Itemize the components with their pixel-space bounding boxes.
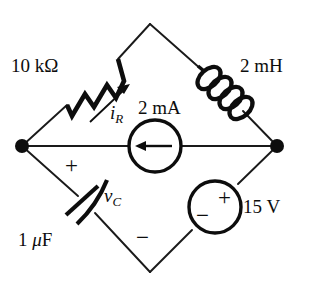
capacitor-symbol [66, 180, 107, 224]
wire-top-to-right-left [150, 24, 202, 70]
resistor-current-label: iR [110, 103, 123, 125]
resistor-value-label: 10 kΩ [11, 56, 58, 75]
wire-bottom-to-right-left [150, 230, 192, 272]
node-dot-left [15, 139, 29, 153]
micro-symbol: μ [32, 229, 42, 250]
wire-left-to-top-lower [22, 105, 67, 146]
voltage-source-minus-sign: − [196, 204, 209, 227]
inductor-value-label: 2 mH [240, 56, 283, 75]
ir-subscript: R [115, 111, 123, 126]
current-source-value-label: 2 mA [138, 98, 181, 117]
capacitor-value-label: 1 μF [18, 230, 52, 249]
circuit-diagram-figure: 10 kΩ 2 mA 2 mH 1 μF 15 V iR vC + − + − [0, 0, 311, 291]
capacitor-plus-sign: + [65, 154, 78, 177]
voltage-source-plus-sign: + [218, 186, 231, 209]
vc-subscript: C [112, 194, 121, 209]
capacitor-voltage-label: vC [104, 186, 121, 208]
voltage-source-value-label: 15 V [243, 197, 280, 216]
capacitor-minus-sign: − [136, 226, 149, 249]
wire-bottom-to-right-right [238, 146, 277, 184]
wire-top-to-right-right [243, 111, 277, 146]
node-dot-right [270, 139, 284, 153]
current-source-symbol [129, 120, 181, 172]
wire-left-to-top-upper [118, 24, 150, 59]
